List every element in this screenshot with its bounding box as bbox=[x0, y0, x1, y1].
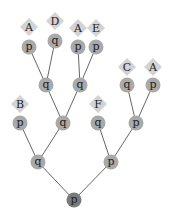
node-label: p bbox=[92, 40, 99, 53]
tree-node: q bbox=[73, 78, 88, 93]
leaf-node: A bbox=[69, 19, 87, 37]
tree-node: p bbox=[129, 116, 144, 131]
node-label: q bbox=[123, 78, 130, 91]
tree-node: q bbox=[39, 78, 54, 93]
node-label: p bbox=[132, 116, 139, 129]
leaf-node: C bbox=[118, 58, 136, 76]
tree-node: p bbox=[71, 40, 86, 55]
leaf-node: A bbox=[20, 18, 38, 36]
node-label: q bbox=[51, 34, 58, 47]
tree-node: p bbox=[146, 78, 161, 93]
tree-node: p bbox=[89, 40, 104, 55]
tree-diagram: pqppqqpqqqppqpp ADAECABF bbox=[0, 0, 169, 217]
leaf-label: A bbox=[73, 22, 83, 35]
node-label: p bbox=[70, 193, 77, 206]
node-label: p bbox=[107, 155, 114, 168]
leaf-label: B bbox=[16, 98, 24, 111]
tree-node: p bbox=[13, 116, 28, 131]
node-label: p bbox=[74, 40, 81, 53]
node-label: p bbox=[25, 40, 32, 53]
tree-edge bbox=[38, 162, 74, 200]
leaf-node: A bbox=[144, 58, 162, 76]
tree-node: q bbox=[91, 116, 106, 131]
leaf-node: B bbox=[11, 95, 29, 113]
leaf-node: D bbox=[46, 12, 64, 30]
root-node: p bbox=[67, 193, 82, 208]
node-label: p bbox=[16, 116, 23, 129]
leaf-label: C bbox=[123, 61, 131, 74]
tree-node: q bbox=[31, 155, 46, 170]
leaves-layer: ADAECABF bbox=[11, 12, 162, 113]
leaf-node: E bbox=[87, 19, 105, 37]
leaf-label: E bbox=[92, 22, 100, 35]
leaf-label: D bbox=[51, 15, 60, 28]
tree-node: q bbox=[120, 78, 135, 93]
node-label: q bbox=[76, 78, 83, 91]
tree-node: p bbox=[104, 155, 119, 170]
node-label: q bbox=[42, 78, 49, 91]
node-label: q bbox=[94, 116, 101, 129]
tree-node: q bbox=[48, 34, 63, 49]
tree-edge bbox=[74, 162, 111, 200]
leaf-label: A bbox=[24, 21, 34, 34]
leaf-label: A bbox=[148, 61, 158, 74]
node-label: q bbox=[34, 155, 41, 168]
tree-node: p bbox=[22, 40, 37, 55]
tree-node: q bbox=[56, 116, 71, 131]
leaf-node: F bbox=[89, 95, 107, 113]
leaf-label: F bbox=[94, 98, 102, 111]
node-label: q bbox=[59, 116, 66, 129]
node-label: p bbox=[149, 78, 156, 91]
